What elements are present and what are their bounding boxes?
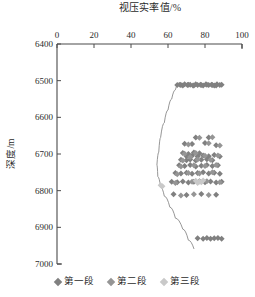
data-point [206,192,212,198]
data-point [195,235,201,241]
legend-label: 第二段 [117,276,147,287]
data-point [191,191,197,197]
data-point [217,143,223,149]
legend-label: 第三段 [170,276,200,287]
data-point [217,171,223,177]
plot-area [0,0,255,297]
data-points-layer [158,81,225,241]
data-point [213,192,219,198]
data-point [206,140,212,146]
chart-legend: 第一段第二段第三段 [0,276,255,287]
legend-diamond-icon [54,277,62,285]
data-point [180,179,186,185]
legend-entry-1[interactable]: 第一段 [55,276,94,287]
legend-label: 第一段 [64,276,94,287]
legend-entry-3[interactable]: 第三段 [161,276,200,287]
compaction-depth-scatter-chart: 视压实率值/% 深度/m 020406080100 64006500660067… [0,0,255,297]
data-point [178,192,184,198]
legend-entry-2[interactable]: 第二段 [108,276,147,287]
data-point [196,135,202,141]
data-point [209,134,215,140]
data-point [198,191,204,197]
legend-diamond-icon [160,277,168,285]
data-point [184,192,190,198]
data-point [171,191,177,197]
legend-diamond-icon [107,277,115,285]
